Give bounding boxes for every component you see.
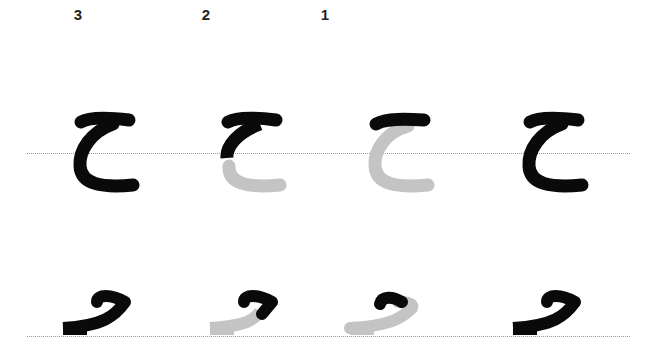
glyph-final-step-1 <box>350 290 420 338</box>
step-label-1: 1 <box>315 6 335 23</box>
glyph-final-step-2 <box>210 290 280 338</box>
glyph-final-step-3 <box>63 290 133 338</box>
glyph-final-final <box>513 290 583 338</box>
step-label-2: 2 <box>196 6 216 23</box>
glyph-isolated-step-2 <box>220 112 290 196</box>
glyph-isolated-final <box>522 112 592 196</box>
glyph-isolated-step-3 <box>73 112 143 196</box>
glyph-isolated-step-1 <box>368 112 438 196</box>
step-label-3: 3 <box>68 6 88 23</box>
